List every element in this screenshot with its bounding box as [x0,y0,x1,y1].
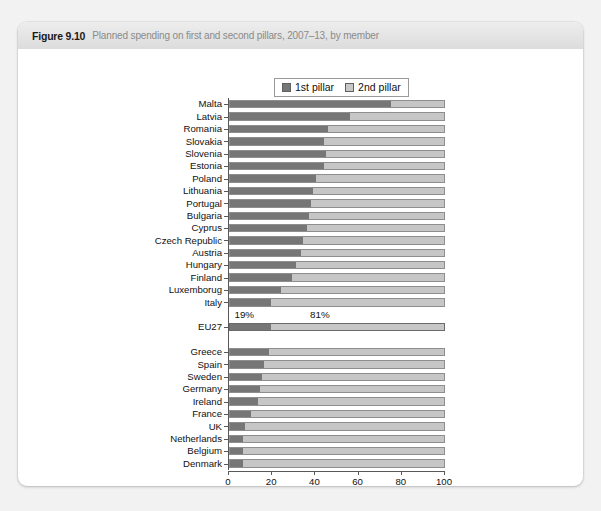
stacked-bar [229,273,445,281]
bar-segment-2nd-pillar [328,126,444,132]
bar-row [229,271,445,283]
bar-row [229,160,445,172]
category-label: Portugal [28,199,228,209]
bar-segment-2nd-pillar [269,349,444,355]
category-label-row: Sweden [28,371,228,383]
bar-row [229,433,445,445]
bar-segment-1st-pillar [230,101,391,107]
bar-segment-1st-pillar [230,262,296,268]
stacked-bar [229,373,445,381]
category-label: Sweden [28,372,228,382]
bar-segment-1st-pillar [230,138,324,144]
bar-row [229,371,445,383]
category-label-row: Poland [28,172,228,184]
stacked-bar [229,348,445,356]
bar-segment-2nd-pillar [350,113,444,119]
category-label: Ireland [28,397,228,407]
value-axis: 020406080100 [228,471,445,472]
stacked-bar [229,100,445,108]
bar-segment-2nd-pillar [262,374,444,380]
bar-row [229,445,445,457]
stacked-bar [229,447,445,455]
category-label: Belgium [28,446,228,456]
stacked-bar [229,249,445,257]
stacked-bar [229,199,445,207]
category-label: Malta [28,99,228,109]
bar-row [229,457,445,469]
bar-segment-1st-pillar [230,460,243,466]
bar-row [229,210,445,222]
percent-label: 81% [310,309,330,320]
bar-segment-1st-pillar [230,163,324,169]
bar-segment-1st-pillar [230,287,281,293]
category-label: Estonia [28,161,228,171]
value-tick-label: 100 [436,476,452,486]
stacked-bar [229,112,445,120]
category-label-row: Czech Republic [28,234,228,246]
bars-area [228,98,445,470]
value-tick [314,471,315,475]
category-label: Poland [28,174,228,184]
category-label: Romania [28,124,228,134]
bar-segment-1st-pillar [230,213,309,219]
value-tick-label: 20 [266,476,277,486]
bar-segment-2nd-pillar [311,200,444,206]
stacked-bar [229,410,445,418]
category-label-row: UK [28,420,228,432]
bar-row [229,383,445,395]
category-label-row: Netherlands [28,433,228,445]
value-tick [358,471,359,475]
bar-segment-1st-pillar [230,200,311,206]
stacked-bar [229,162,445,170]
category-label: Slovakia [28,137,228,147]
category-label: EU27 [28,322,228,332]
category-label: Czech Republic [28,236,228,246]
category-label: Germany [28,384,228,394]
bar-row [229,222,445,234]
category-label-row: Germany [28,383,228,395]
category-label-row: France [28,408,228,420]
bar-segment-1st-pillar [230,188,313,194]
category-axis: MaltaLatviaRomaniaSlovakiaSloveniaEstoni… [28,98,228,470]
bar-row [229,247,445,259]
category-label-row: Romania [28,123,228,135]
category-label-row: Malta [28,98,228,110]
stacked-bar [229,385,445,393]
stacked-bar [229,422,445,430]
bar-segment-2nd-pillar [260,386,444,392]
bar-segment-2nd-pillar [243,436,444,442]
value-tick-label: 80 [395,476,406,486]
category-label-row: Latvia [28,110,228,122]
figure-card: Figure 9.10 Planned spending on first an… [18,22,583,486]
category-label-row: Slovakia [28,135,228,147]
bar-segment-2nd-pillar [303,237,444,243]
group-spacer [28,333,228,345]
bar-segment-1st-pillar [230,411,251,417]
stacked-bar [229,459,445,467]
value-tick-label: 60 [352,476,363,486]
category-label: Greece [28,347,228,357]
group-spacer [28,309,228,321]
bar-segment-2nd-pillar [324,138,444,144]
bar-segment-1st-pillar [230,274,292,280]
bar-row [229,185,445,197]
bar-segment-1st-pillar [230,126,328,132]
category-label: Luxemborug [28,285,228,295]
bar-row [229,197,445,209]
category-label: Hungary [28,260,228,270]
value-tick [444,471,445,475]
category-label: Austria [28,248,228,258]
bar-segment-1st-pillar [230,374,262,380]
bar-segment-2nd-pillar [271,299,444,305]
bar-segment-2nd-pillar [264,361,444,367]
bar-row [229,284,445,296]
category-label-row: Italy [28,296,228,308]
bar-segment-1st-pillar [230,151,326,157]
value-tick-label: 0 [225,476,230,486]
stacked-bar [229,360,445,368]
category-label-row: Luxemborug [28,284,228,296]
category-label: France [28,409,228,419]
bar-segment-1st-pillar [230,237,303,243]
bar-segment-1st-pillar [230,448,243,454]
category-label: Italy [28,298,228,308]
